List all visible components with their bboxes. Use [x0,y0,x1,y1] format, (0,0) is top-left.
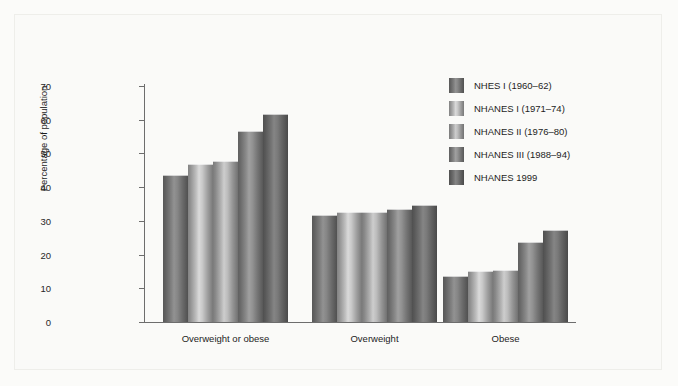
y-axis-title: Percentage of population [38,39,49,239]
bar-fill [362,212,387,322]
bar-fill [387,209,412,322]
bar-fill [518,242,543,322]
bar-fill [443,276,468,322]
y-tick-label: 40 [15,182,51,193]
y-tick-mark [139,153,144,154]
bar[interactable] [468,272,493,322]
legend-label: NHANES I (1971–74) [474,103,565,114]
y-tick-label: 30 [15,215,51,226]
y-tick-label: 0 [15,317,51,328]
chart-frame: Percentage of population 010203040506070… [14,14,662,370]
legend-item[interactable]: NHANES II (1976–80) [449,121,659,142]
bar[interactable] [443,277,468,322]
bar-fill [263,114,288,322]
y-tick-label: 60 [15,114,51,125]
bar[interactable] [493,271,518,322]
bar[interactable] [387,210,412,322]
x-axis-label: Overweight or obese [182,333,270,344]
bar[interactable] [163,176,188,322]
bar[interactable] [312,216,337,322]
legend-item[interactable]: NHANES III (1988–94) [449,144,659,165]
y-tick-label: 50 [15,148,51,159]
bar-fill [493,270,518,322]
y-tick-mark [139,255,144,256]
bar[interactable] [263,115,288,322]
y-tick-mark [139,187,144,188]
legend-label: NHANES III (1988–94) [474,149,570,160]
bar-fill [312,215,337,322]
legend-swatch-icon [449,78,464,93]
legend-swatch-icon [449,101,464,116]
y-tick-mark [139,221,144,222]
bar[interactable] [362,213,387,322]
bar-fill [543,230,568,322]
y-tick-mark [139,86,144,87]
bar-fill [163,175,188,322]
bar-group [312,86,437,322]
legend-swatch-icon [449,147,464,162]
bar-group [163,86,288,322]
bar-fill [188,164,213,322]
legend-label: NHES I (1960–62) [474,80,552,91]
legend-swatch-icon [449,170,464,185]
y-tick-label: 20 [15,249,51,260]
legend-label: NHANES 1999 [474,172,537,183]
bar[interactable] [518,243,543,322]
bar-fill [337,212,362,322]
legend-item[interactable]: NHANES I (1971–74) [449,98,659,119]
y-tick-mark [139,322,144,323]
legend-item[interactable]: NHES I (1960–62) [449,75,659,96]
y-tick-mark [139,120,144,121]
bar[interactable] [213,162,238,322]
y-tick-label: 70 [15,81,51,92]
legend-item[interactable]: NHANES 1999 [449,167,659,188]
bar-fill [468,271,493,322]
x-axis-label: Obese [492,333,520,344]
chart-legend: NHES I (1960–62)NHANES I (1971–74)NHANES… [449,75,659,190]
y-tick-mark [139,288,144,289]
bar[interactable] [188,165,213,322]
x-axis-label: Overweight [350,333,398,344]
legend-swatch-icon [449,124,464,139]
legend-label: NHANES II (1976–80) [474,126,567,137]
bar[interactable] [337,213,362,322]
chart-screenshot: Percentage of population 010203040506070… [0,0,678,386]
bar-fill [238,131,263,322]
bar[interactable] [543,231,568,322]
bar-fill [213,161,238,322]
bar[interactable] [412,206,437,322]
y-tick-label: 10 [15,283,51,294]
bar[interactable] [238,132,263,322]
x-axis-line [144,322,576,323]
bar-fill [412,205,437,322]
